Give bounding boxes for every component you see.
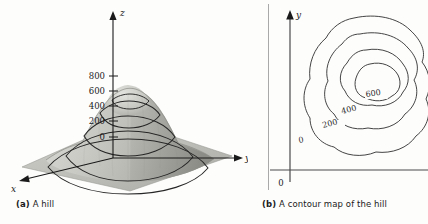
contour-y-axis-label: y [295, 10, 302, 20]
z-axis-arrowhead [109, 11, 116, 20]
caption-b: (b) A contour map of the hill [262, 199, 387, 209]
x-axis-label: x [11, 184, 16, 194]
panel-a-hill: 800 600 400 200 0 z x y [0, 0, 248, 224]
caption-a: (a) A hill [16, 199, 54, 209]
contour-level-200 [325, 33, 418, 129]
contour-origin-label: 0 [278, 178, 283, 188]
z-axis-label: z [119, 8, 125, 18]
contour-y-axis [286, 10, 294, 182]
contour-map-plot: y 0 0 200 40 [248, 0, 428, 196]
z-tick-200: 200 [89, 116, 105, 126]
contour-level-0 [304, 16, 428, 155]
contour-y-axis-arrowhead [286, 10, 294, 20]
panel-b-contour-map: y 0 0 200 40 [248, 0, 428, 224]
x-axis-arrowhead [19, 175, 30, 182]
z-tick-0: 0 [100, 132, 105, 142]
figure-root: 800 600 400 200 0 z x y y 0 [0, 0, 428, 224]
y-axis-arrowhead [234, 154, 243, 161]
z-tick-400: 400 [89, 101, 105, 111]
contour-curves [304, 16, 428, 155]
caption-a-tag: (a) [16, 199, 30, 209]
caption-b-text: A contour map of the hill [279, 199, 387, 209]
caption-b-tag: (b) [262, 199, 276, 209]
z-tick-600: 600 [89, 86, 105, 96]
z-tick-800: 800 [89, 71, 105, 81]
caption-a-text: A hill [33, 199, 55, 209]
hill-surface-plot: 800 600 400 200 0 z x y [0, 0, 248, 196]
